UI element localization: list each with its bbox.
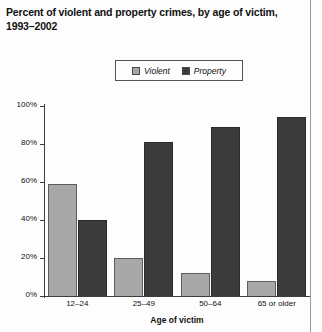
x-axis-tick-label: 50–64 (177, 299, 244, 313)
y-axis-tick-label: 80% (21, 138, 37, 147)
page-margin-rule (310, 0, 311, 332)
bar-violent-4 (247, 281, 276, 296)
y-axis-tick: 20% (0, 258, 44, 259)
chart-figure: Percent of violent and property crimes, … (0, 0, 322, 332)
chart-title: Percent of violent and property crimes, … (6, 5, 302, 33)
y-axis-tick-label: 60% (21, 176, 37, 185)
y-axis-tick: 40% (0, 220, 44, 221)
bar-group (111, 106, 178, 296)
legend-swatch-violent (132, 67, 140, 75)
bar-violent-2 (114, 258, 143, 296)
bar-group (244, 106, 311, 296)
y-axis-tick: 0% (0, 296, 44, 297)
chart-legend: Violent Property (115, 60, 243, 81)
y-axis-tick-label: 100% (17, 100, 37, 109)
x-axis-tick-labels: 12–2425–4950–6465 or older (44, 299, 310, 313)
x-axis-tick-label: 25–49 (111, 299, 178, 313)
bar-property-2 (144, 142, 173, 296)
bar-property-3 (211, 127, 240, 296)
bar-violent-3 (181, 273, 210, 296)
y-axis-tick-mark (40, 296, 44, 297)
y-axis-tick: 80% (0, 144, 44, 145)
legend-swatch-property (182, 67, 190, 75)
y-axis-tick-label: 20% (21, 252, 37, 261)
bar-group (177, 106, 244, 296)
x-axis-tick-label: 65 or older (244, 299, 311, 313)
legend-label-property: Property (194, 66, 226, 76)
y-axis-tick-label: 40% (21, 214, 37, 223)
bar-group (44, 106, 111, 296)
y-axis-tick: 60% (0, 182, 44, 183)
bar-violent-1 (48, 184, 77, 296)
legend-item-violent: Violent (132, 66, 170, 76)
bar-property-1 (78, 220, 107, 296)
x-axis-tick-label: 12–24 (44, 299, 111, 313)
x-axis-line (42, 296, 310, 297)
y-axis-tick-label: 0% (25, 290, 37, 299)
bar-property-4 (277, 117, 306, 296)
x-axis-title: Age of victim (44, 315, 310, 325)
legend-label-violent: Violent (144, 66, 170, 76)
y-axis-tick: 100% (0, 106, 44, 107)
plot-bars (44, 106, 310, 296)
legend-item-property: Property (182, 66, 226, 76)
